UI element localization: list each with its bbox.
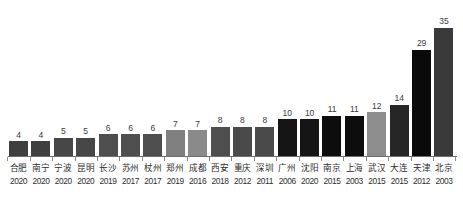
x-axis-tick (52, 157, 53, 161)
bar (143, 134, 162, 156)
x-axis-year-label: 2019 (99, 175, 118, 187)
bar (345, 116, 364, 156)
bar-group: 6 (121, 4, 140, 156)
x-axis-tick (7, 157, 8, 161)
x-axis-category-label: 西安 (211, 162, 230, 174)
x-axis-category-label: 合肥 (9, 162, 28, 174)
x-axis-tick (187, 157, 188, 161)
x-axis-tick (254, 157, 255, 161)
bar-chart: 4455666778881010111112142935 合肥2020南宁202… (0, 0, 463, 203)
x-axis-tick (455, 157, 456, 161)
x-axis-year-label: 2003 (434, 175, 453, 187)
bar-value-label: 5 (61, 126, 66, 136)
bar-value-label: 8 (262, 115, 267, 125)
bar-group: 12 (367, 4, 386, 156)
x-axis-category-label: 南京 (322, 162, 341, 174)
bar (54, 138, 73, 156)
bar (31, 141, 50, 156)
bar-group: 4 (9, 4, 28, 156)
x-axis-year-label: 2020 (31, 175, 50, 187)
x-axis-tick (388, 157, 389, 161)
x-axis-label-group: 杖州2017 (143, 162, 162, 187)
x-axis-tick (343, 157, 344, 161)
x-axis-category-label: 大连 (390, 162, 409, 174)
bar-value-label: 6 (128, 123, 133, 133)
x-axis-category-label: 郑州 (166, 162, 185, 174)
bar-group: 5 (54, 4, 73, 156)
x-axis-year-label: 2015 (367, 175, 386, 187)
bar (99, 134, 118, 156)
x-axis-label-group: 苏州2017 (121, 162, 140, 187)
bar-value-label: 10 (305, 108, 314, 118)
bar (121, 134, 140, 156)
x-axis-tick (209, 157, 210, 161)
x-axis-tick (299, 157, 300, 161)
x-axis-tick (276, 157, 277, 161)
x-axis-category-label: 昆明 (76, 162, 95, 174)
bar-value-label: 6 (151, 123, 156, 133)
x-axis-tick (30, 157, 31, 161)
x-axis-year-label: 2011 (255, 175, 274, 187)
bar-value-label: 29 (417, 38, 426, 48)
x-axis-tick (433, 157, 434, 161)
x-axis-year-label: 2012 (412, 175, 431, 187)
x-axis-year-label: 2018 (211, 175, 230, 187)
bar-group: 11 (345, 4, 364, 156)
x-axis-label-group: 广州2006 (278, 162, 297, 187)
x-axis-label-row: 合肥2020南宁2020宁波2020昆明2020长沙2019苏州2017杖州20… (9, 162, 456, 200)
x-axis-tick (231, 157, 232, 161)
x-axis-year-label: 2003 (345, 175, 364, 187)
x-axis-category-label: 武汉 (367, 162, 386, 174)
x-axis-year-label: 2015 (390, 175, 409, 187)
bar-value-label: 14 (395, 93, 404, 103)
x-axis-tick (366, 157, 367, 161)
x-axis-label-group: 天津2012 (412, 162, 431, 187)
x-axis-category-label: 成都 (188, 162, 207, 174)
x-axis-category-label: 宁波 (54, 162, 73, 174)
bar (300, 119, 319, 156)
bar-value-label: 7 (173, 119, 178, 129)
bar (188, 130, 207, 156)
x-axis-year-label: 2016 (188, 175, 207, 187)
bar-value-label: 8 (218, 115, 223, 125)
x-axis-year-label: 2017 (121, 175, 140, 187)
x-axis-year-label: 2020 (9, 175, 28, 187)
bar-value-label: 6 (106, 123, 111, 133)
x-axis-label-group: 深圳2011 (255, 162, 274, 187)
x-axis-label-group: 郑州2019 (166, 162, 185, 187)
bar-value-label: 4 (39, 130, 44, 140)
bar (367, 112, 386, 156)
bar (412, 50, 431, 156)
bar (278, 119, 297, 156)
bar-group: 4 (31, 4, 50, 156)
x-axis-year-label: 2015 (322, 175, 341, 187)
x-axis-category-label: 深圳 (255, 162, 274, 174)
x-axis-tick (97, 157, 98, 161)
bar-group: 10 (278, 4, 297, 156)
x-axis-year-label: 2017 (143, 175, 162, 187)
bar-group: 6 (99, 4, 118, 156)
bar-value-label: 5 (83, 126, 88, 136)
x-axis-label-group: 长沙2019 (99, 162, 118, 187)
x-axis-year-label: 2020 (76, 175, 95, 187)
bar-group: 5 (76, 4, 95, 156)
x-axis-label-group: 武汉2015 (367, 162, 386, 187)
x-axis-category-label: 南宁 (31, 162, 50, 174)
x-axis-category-label: 苏州 (121, 162, 140, 174)
x-axis-tick (321, 157, 322, 161)
x-axis-label-group: 西安2018 (211, 162, 230, 187)
bar-value-label: 12 (372, 101, 381, 111)
x-axis-category-label: 重庆 (233, 162, 252, 174)
x-axis-tick (119, 157, 120, 161)
bar-group: 11 (322, 4, 341, 156)
x-axis-category-label: 广州 (278, 162, 297, 174)
bar-value-label: 7 (195, 119, 200, 129)
bar (211, 127, 230, 156)
bar-group: 8 (211, 4, 230, 156)
x-axis-label-group: 宁波2020 (54, 162, 73, 187)
bar (322, 116, 341, 156)
x-axis-label-group: 上海2003 (345, 162, 364, 187)
x-axis-year-label: 2012 (233, 175, 252, 187)
x-axis-label-group: 成都2016 (188, 162, 207, 187)
x-axis-category-label: 天津 (412, 162, 431, 174)
